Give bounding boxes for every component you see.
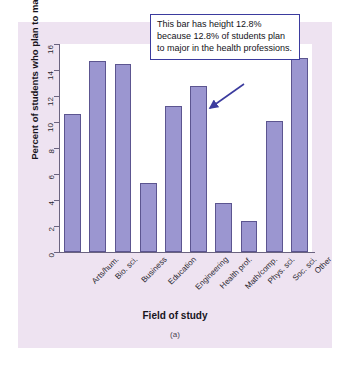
y-axis-tick-label: 4: [47, 201, 56, 205]
y-axis-tick-label: 12: [47, 97, 56, 106]
bar: [165, 106, 182, 252]
y-axis-tick: 14: [54, 70, 59, 71]
bar: [215, 203, 232, 252]
x-axis-tick-labels: Arts/hum.Bio. sci.BusinessEducationEngin…: [60, 253, 312, 313]
bar: [291, 58, 308, 252]
panel-caption: (a): [18, 330, 332, 339]
y-axis-tick: 16: [54, 44, 59, 45]
annotation-arrow-icon: [204, 82, 246, 114]
annotation-callout: This bar has height 12.8% because 12.8% …: [150, 14, 300, 60]
y-axis-tick: 2: [54, 226, 59, 227]
x-axis-tick-label: Business: [140, 255, 169, 284]
y-axis-tick: 10: [54, 122, 59, 123]
y-axis-title: Percent of students who plan to major: [29, 0, 40, 164]
y-axis-tick-label: 14: [47, 71, 56, 80]
bar-series: [60, 44, 312, 252]
bar: [115, 64, 132, 253]
bar: [140, 183, 157, 252]
y-axis-tick-label: 2: [47, 227, 56, 231]
y-axis-tick: 0: [54, 252, 59, 253]
y-axis-tick-label: 6: [47, 175, 56, 179]
y-axis-tick: 8: [54, 148, 59, 149]
x-axis-title: Field of study: [18, 310, 332, 321]
bar: [89, 61, 106, 252]
y-axis-tick-label: 10: [47, 123, 56, 132]
y-axis-tick: 12: [54, 96, 59, 97]
y-axis-tick: 4: [54, 200, 59, 201]
bar: [266, 121, 283, 252]
y-axis-tick-label: 0: [47, 253, 56, 257]
figure-panel: 0246810121416 Percent of students who pl…: [18, 22, 332, 348]
x-axis-tick-label: Education: [166, 255, 198, 287]
y-axis-tick-label: 16: [47, 45, 56, 54]
bar: [64, 114, 81, 252]
bar: [241, 221, 258, 252]
y-axis-tick: 6: [54, 174, 59, 175]
y-axis-tick-label: 8: [47, 149, 56, 153]
